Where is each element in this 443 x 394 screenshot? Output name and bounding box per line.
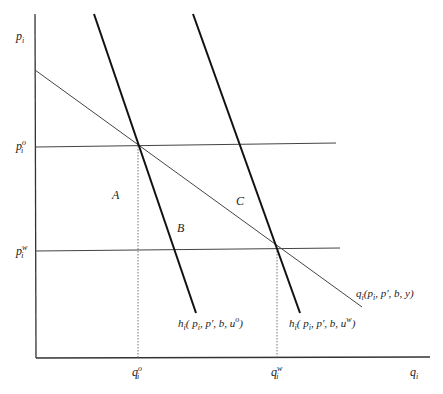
diagram-canvas	[0, 0, 443, 394]
price-pw-sub: i	[21, 251, 23, 260]
marshallian-args: (p	[364, 287, 373, 299]
quantity-label-qw: qwi	[271, 366, 279, 378]
quantity-qo-sub: i	[137, 372, 139, 381]
hicksian-uw-label: hi( pi, p′, b, uw)	[289, 318, 355, 329]
hicksian-uo-sup: o	[235, 315, 239, 324]
y-axis-label: pi	[16, 30, 24, 42]
price-line-po	[36, 143, 336, 147]
hicksian-uo-rest: , p′, b, u	[200, 317, 235, 329]
area-label-b: B	[177, 222, 184, 234]
price-po-sub: i	[21, 146, 23, 155]
x-axis-label-sub: i	[416, 372, 418, 381]
hicksian-uo-prefix: h	[178, 317, 184, 329]
hicksian-uw-close: )	[352, 317, 356, 329]
area-label-a: A	[112, 189, 119, 201]
marshallian-rest: , p′, b, y)	[375, 287, 413, 299]
hicksian-uw-args-sub: i	[309, 323, 311, 332]
hicksian-uw-args: ( p	[297, 317, 309, 329]
hicksian-uo-label: hi( pi, p′, b, uo)	[178, 318, 243, 329]
y-axis-label-sub: i	[22, 36, 24, 45]
hicksian-uo-close: )	[239, 317, 243, 329]
hicksian-uo-args-sub: i	[198, 323, 200, 332]
hicksian-uw-rest: , p′, b, u	[311, 317, 346, 329]
hicksian-uw-sub: i	[295, 323, 297, 332]
hicksian-uo-sub: i	[184, 323, 186, 332]
marshallian-args-sub: i	[373, 293, 375, 302]
marshallian-demand-curve	[35, 70, 362, 307]
price-label-pw: pwi	[16, 245, 24, 257]
quantity-label-qo: qoi	[132, 366, 139, 378]
marshallian-curve-label: qi(pi, p′, b, y)	[356, 288, 414, 299]
hicksian-uw-prefix: h	[289, 317, 295, 329]
x-axis	[36, 357, 430, 358]
x-axis-label: qi	[410, 366, 418, 378]
price-line-pw	[36, 248, 340, 251]
y-axis	[35, 14, 36, 358]
area-label-c: C	[236, 195, 244, 207]
hicksian-curve-uo	[94, 14, 196, 313]
marshallian-prefix: q	[356, 287, 362, 299]
hicksian-uw-sup: w	[346, 315, 351, 324]
hicksian-curve-uw	[193, 14, 300, 313]
hicksian-uo-args: ( p	[186, 317, 198, 329]
marshallian-sub: i	[362, 293, 364, 302]
price-label-po: poi	[16, 140, 23, 152]
quantity-qw-sub: i	[276, 372, 278, 381]
